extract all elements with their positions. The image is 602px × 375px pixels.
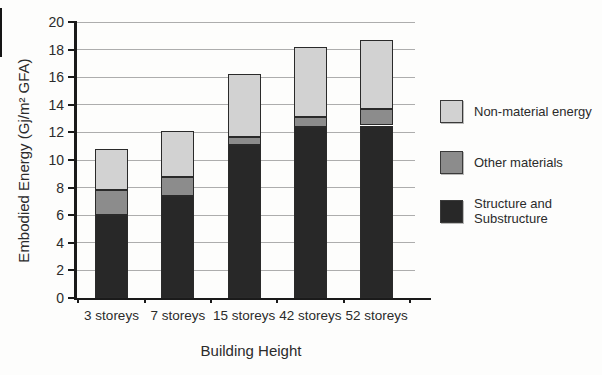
scan-artifact bbox=[0, 8, 2, 57]
y-axis-line bbox=[74, 22, 77, 300]
x-axis-tick bbox=[210, 298, 212, 303]
bar-segment-structure-and-substructure bbox=[228, 145, 261, 298]
y-axis-tick bbox=[68, 131, 77, 133]
y-axis-tick-label: 8 bbox=[31, 179, 64, 197]
x-axis-tick bbox=[77, 298, 79, 303]
y-axis-tick-label: 10 bbox=[31, 151, 64, 169]
x-axis-category-label: 52 storeys bbox=[337, 308, 417, 323]
bar-segment-other-materials bbox=[161, 177, 194, 196]
y-axis-tick-label: 4 bbox=[31, 234, 64, 252]
bar-segment-other-materials bbox=[294, 117, 327, 127]
x-axis-tick bbox=[276, 298, 278, 303]
y-axis-tick bbox=[68, 269, 77, 271]
y-axis-tick bbox=[68, 49, 77, 51]
bar-segment-non-material-energy bbox=[360, 40, 393, 109]
y-axis-tick-label: 2 bbox=[31, 261, 64, 279]
legend-label: Non-material energy bbox=[474, 104, 592, 119]
y-axis-tick bbox=[68, 104, 77, 106]
y-axis-tick bbox=[68, 159, 77, 161]
bar-segment-non-material-energy bbox=[95, 149, 128, 190]
y-axis-tick-label: 12 bbox=[31, 123, 64, 141]
legend-label: Structure and Substructure bbox=[474, 196, 570, 226]
y-axis-tick bbox=[68, 21, 77, 23]
bar-segment-non-material-energy bbox=[161, 131, 194, 177]
legend-label: Other materials bbox=[474, 155, 563, 170]
bar-segment-other-materials bbox=[360, 109, 393, 126]
x-axis-tick bbox=[144, 298, 146, 303]
legend: Non-material energy Other materials Stru… bbox=[440, 0, 600, 375]
bar-segment-non-material-energy bbox=[294, 47, 327, 117]
y-axis-title: Embodied Energy (Gj/m² GFA) bbox=[15, 41, 32, 281]
legend-swatch-other-materials bbox=[440, 151, 463, 174]
y-axis-tick bbox=[68, 297, 77, 299]
legend-swatch-structure-and-substructure bbox=[440, 200, 463, 223]
bar-segment-structure-and-substructure bbox=[294, 127, 327, 298]
bar-segment-non-material-energy bbox=[228, 74, 261, 136]
x-axis-tick bbox=[409, 298, 411, 303]
bar-segment-structure-and-substructure bbox=[360, 126, 393, 299]
x-axis-tick bbox=[343, 298, 345, 303]
x-axis-title: Building Height bbox=[146, 342, 356, 359]
y-axis-tick-label: 6 bbox=[31, 206, 64, 224]
y-axis-tick-label: 14 bbox=[31, 96, 64, 114]
bar-segment-structure-and-substructure bbox=[95, 215, 128, 298]
y-axis-tick-label: 20 bbox=[31, 13, 64, 31]
legend-item-other-materials: Other materials bbox=[440, 151, 563, 174]
x-axis-line bbox=[74, 298, 431, 300]
y-axis-tick-label: 18 bbox=[31, 41, 64, 59]
y-axis-tick-label: 0 bbox=[31, 289, 64, 307]
y-axis-tick bbox=[68, 242, 77, 244]
y-axis-tick bbox=[68, 214, 77, 216]
bar-segment-other-materials bbox=[95, 190, 128, 215]
y-axis-tick bbox=[68, 76, 77, 78]
y-axis-tick-label: 16 bbox=[31, 68, 64, 86]
gridline bbox=[77, 22, 415, 23]
chart-figure: 024681012141618203 storeys7 storeys15 st… bbox=[0, 0, 602, 375]
legend-item-non-material-energy: Non-material energy bbox=[440, 100, 592, 123]
legend-swatch-non-material-energy bbox=[440, 100, 463, 123]
legend-item-structure-and-substructure: Structure and Substructure bbox=[440, 196, 570, 226]
bar-segment-structure-and-substructure bbox=[161, 196, 194, 298]
y-axis-tick bbox=[68, 187, 77, 189]
bar-segment-other-materials bbox=[228, 137, 261, 145]
